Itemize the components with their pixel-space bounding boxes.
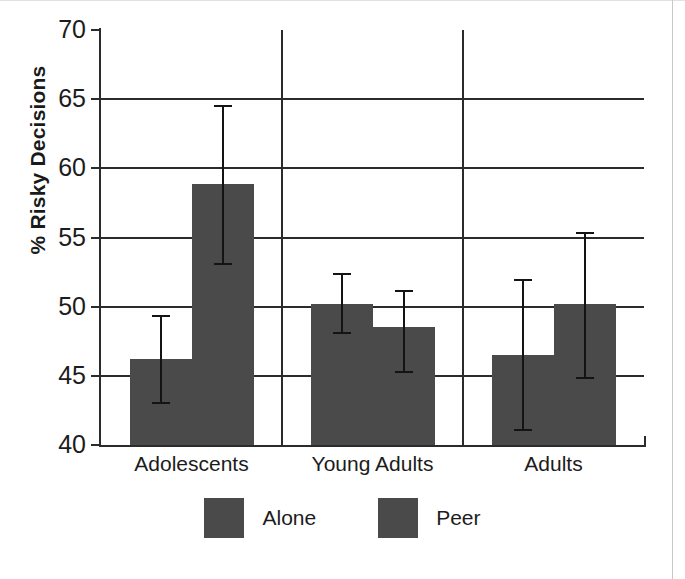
error-bar-cap-lower xyxy=(152,402,170,404)
y-tick-mark xyxy=(91,375,101,377)
y-tick-label: 70 xyxy=(34,17,86,42)
error-bar-line xyxy=(584,232,586,379)
x-category-label: Young Adults xyxy=(282,452,463,476)
y-tick-label: 45 xyxy=(34,363,86,388)
gridline xyxy=(101,167,644,169)
plot-area xyxy=(101,30,644,445)
error-bar-line xyxy=(522,279,524,431)
legend-label: Peer xyxy=(436,506,480,530)
error-bar-line xyxy=(160,315,162,404)
error-bar-cap-upper xyxy=(395,290,413,292)
error-bar-cap-lower xyxy=(214,263,232,265)
bar-chart-figure: % Risky Decisions 40455055606570 Adolesc… xyxy=(0,0,685,579)
legend-item: Alone xyxy=(204,498,316,538)
error-bar-cap-lower xyxy=(333,332,351,334)
y-tick-mark xyxy=(91,167,101,169)
error-bar-line xyxy=(341,273,343,334)
legend-label: Alone xyxy=(262,506,316,530)
y-tick-label: 50 xyxy=(34,294,86,319)
y-tick-label: 60 xyxy=(34,155,86,180)
y-tick-mark xyxy=(91,306,101,308)
chart-legend: AlonePeer xyxy=(0,498,685,538)
error-bar-cap-upper xyxy=(152,315,170,317)
x-axis-end-tick xyxy=(644,436,646,447)
x-axis-line xyxy=(99,445,646,447)
legend-swatch xyxy=(204,498,244,538)
y-tick-mark xyxy=(91,29,101,31)
error-bar-cap-lower xyxy=(395,371,413,373)
gridline xyxy=(101,237,644,239)
error-bar-cap-upper xyxy=(514,279,532,281)
y-tick-mark xyxy=(91,237,101,239)
legend-swatch xyxy=(378,498,418,538)
y-tick-label: 40 xyxy=(34,432,86,457)
group-divider xyxy=(281,30,283,445)
error-bar-cap-upper xyxy=(214,105,232,107)
error-bar-line xyxy=(403,290,405,373)
error-bar-cap-lower xyxy=(576,377,594,379)
x-category-label: Adults xyxy=(463,452,644,476)
y-tick-label: 65 xyxy=(34,86,86,111)
error-bar-line xyxy=(222,105,224,265)
gridline xyxy=(101,98,644,100)
legend-item: Peer xyxy=(378,498,480,538)
x-category-label: Adolescents xyxy=(101,452,282,476)
y-tick-mark xyxy=(91,98,101,100)
error-bar-cap-upper xyxy=(333,273,351,275)
error-bar-cap-upper xyxy=(576,232,594,234)
group-divider xyxy=(462,30,464,445)
error-bar-cap-lower xyxy=(514,429,532,431)
y-tick-label: 55 xyxy=(34,225,86,250)
y-tick-mark xyxy=(91,444,101,446)
